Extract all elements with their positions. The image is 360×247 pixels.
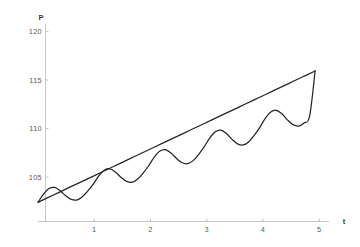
x-tick-label-2: 2	[148, 225, 152, 234]
plot-canvas: 120 115 110 105 P 1 2 3 4 5 t	[0, 0, 360, 247]
trend-line-curve	[38, 71, 315, 202]
x-tick-label-4: 4	[261, 225, 265, 234]
y-tick-label-120: 120	[29, 27, 42, 36]
x-axis-group: 1 2 3 4 5 t	[38, 217, 346, 234]
data-series-group	[38, 71, 315, 202]
y-tick-label-110: 110	[29, 124, 42, 133]
plot-figure: 120 115 110 105 P 1 2 3 4 5 t	[0, 0, 360, 247]
x-tick-label-1: 1	[92, 225, 96, 234]
y-axis-title: P	[38, 13, 43, 22]
y-tick-label-115: 115	[29, 76, 42, 85]
x-axis-title: t	[343, 217, 346, 226]
x-tick-label-3: 3	[205, 225, 209, 234]
y-tick-marks	[46, 32, 49, 178]
x-tick-marks	[94, 219, 319, 222]
y-axis-group: 120 115 110 105 P	[29, 13, 49, 222]
x-tick-label-5: 5	[317, 225, 321, 234]
y-tick-label-105: 105	[29, 173, 42, 182]
